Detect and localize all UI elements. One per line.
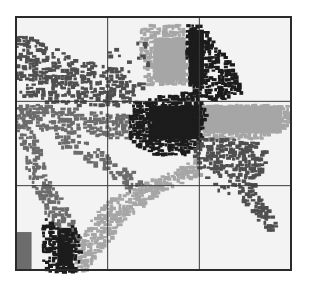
point	[42, 235, 45, 237]
point	[55, 62, 58, 65]
point	[148, 104, 151, 107]
point	[119, 90, 122, 94]
point	[184, 124, 187, 127]
point	[44, 71, 48, 73]
point	[74, 77, 77, 80]
point	[74, 248, 78, 251]
point	[83, 123, 87, 126]
point	[29, 39, 32, 42]
point	[254, 192, 257, 195]
point	[142, 124, 146, 128]
point	[54, 97, 58, 100]
point	[51, 200, 56, 204]
point	[157, 191, 161, 194]
point	[201, 50, 206, 53]
point	[44, 206, 49, 210]
point	[48, 257, 51, 260]
point	[218, 81, 222, 84]
point	[42, 162, 45, 166]
point	[141, 83, 146, 86]
point	[270, 110, 273, 112]
point	[89, 97, 93, 100]
point	[171, 27, 174, 30]
point	[68, 260, 71, 263]
point	[195, 50, 198, 53]
point	[80, 117, 83, 120]
point	[235, 104, 238, 107]
point	[276, 123, 279, 127]
point	[260, 212, 263, 216]
point	[131, 94, 136, 96]
point	[227, 174, 232, 177]
point	[38, 152, 43, 156]
point	[180, 108, 183, 110]
point	[267, 134, 271, 137]
point	[48, 94, 53, 96]
point	[238, 112, 242, 115]
point	[158, 123, 161, 126]
point	[119, 121, 124, 125]
point	[112, 163, 117, 167]
point	[243, 130, 247, 133]
point	[178, 28, 181, 31]
point	[36, 176, 39, 180]
point	[263, 104, 268, 108]
point	[52, 226, 56, 230]
point	[106, 157, 111, 161]
point	[231, 133, 234, 136]
point	[60, 136, 63, 139]
point	[200, 138, 204, 141]
point	[159, 75, 163, 78]
point	[203, 138, 208, 142]
point	[121, 81, 124, 85]
point	[62, 52, 66, 54]
point	[144, 191, 148, 193]
point	[257, 203, 261, 205]
point	[124, 137, 128, 140]
point	[205, 82, 208, 85]
point	[89, 117, 92, 120]
point	[222, 88, 225, 91]
point	[115, 226, 118, 228]
point	[142, 130, 145, 133]
point	[58, 229, 61, 233]
point	[205, 69, 209, 73]
point	[222, 134, 225, 137]
point	[28, 168, 31, 172]
point	[22, 36, 25, 39]
point	[186, 163, 190, 165]
point	[90, 87, 93, 90]
point	[216, 120, 219, 124]
point	[177, 175, 180, 179]
point	[244, 114, 247, 118]
point	[142, 137, 146, 140]
point	[223, 154, 226, 159]
point	[55, 133, 59, 135]
point	[178, 69, 182, 72]
point	[74, 130, 77, 134]
point	[70, 123, 73, 126]
point	[164, 143, 167, 146]
point	[109, 75, 114, 78]
point	[181, 96, 186, 98]
point	[89, 80, 92, 84]
point	[108, 117, 111, 119]
point	[26, 149, 29, 152]
point	[42, 232, 45, 235]
point	[93, 74, 96, 78]
point	[120, 67, 124, 71]
point	[215, 127, 218, 131]
point	[83, 62, 86, 65]
point	[35, 94, 38, 97]
point	[112, 133, 115, 137]
point	[171, 123, 175, 126]
point	[93, 163, 98, 167]
point	[231, 69, 235, 73]
point	[238, 154, 241, 158]
point	[41, 97, 44, 100]
point	[71, 247, 74, 250]
point	[28, 127, 31, 130]
point	[201, 44, 204, 48]
point	[124, 84, 129, 88]
point	[32, 84, 36, 86]
